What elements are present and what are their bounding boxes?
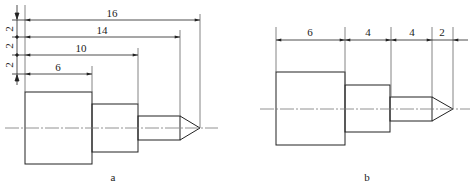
figure-b-caption: b — [364, 171, 370, 183]
figure-a-caption: a — [111, 171, 116, 183]
figure-a: 16 14 10 6 2 2 2 a — [3, 5, 218, 183]
figure-b-part-outline — [276, 72, 453, 145]
spacing-label-3: 2 — [3, 62, 15, 68]
chain-dim-label-4a: 4 — [365, 26, 371, 38]
figure-b-section-2 — [345, 85, 390, 132]
figure-a-extension-lines — [25, 5, 200, 128]
spacing-label-2: 2 — [3, 43, 15, 49]
chain-dim-label-2: 2 — [439, 26, 445, 38]
figure-b-section-1 — [276, 72, 345, 145]
chain-dim-label-6: 6 — [307, 26, 313, 38]
dim-label-10: 10 — [76, 42, 88, 54]
chain-dim-label-4b: 4 — [409, 26, 415, 38]
dim-label-14: 14 — [97, 24, 109, 36]
dim-label-6: 6 — [55, 61, 61, 73]
figure-a-dimension-lines — [25, 20, 200, 74]
dim-label-16: 16 — [107, 7, 119, 19]
drawing-canvas: 16 14 10 6 2 2 2 a — [0, 0, 470, 188]
figure-b: 6 4 4 2 b — [260, 26, 470, 183]
spacing-label-1: 2 — [3, 26, 15, 32]
